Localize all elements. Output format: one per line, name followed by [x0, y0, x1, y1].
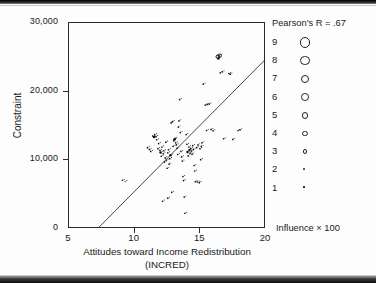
legend-item-label: 3: [272, 145, 277, 156]
data-point: [155, 136, 157, 138]
data-point: [188, 149, 191, 152]
data-point-speckle: [149, 146, 150, 147]
data-point-speckle: [204, 83, 205, 84]
data-point: [198, 182, 200, 184]
data-point: [199, 148, 201, 150]
legend-bubble-icon: [300, 37, 311, 48]
data-point: [168, 163, 170, 165]
data-point-speckle: [126, 180, 127, 181]
data-point: [172, 121, 174, 123]
legend-item-label: 1: [272, 182, 277, 193]
data-point-speckle: [182, 150, 183, 151]
data-point-speckle: [214, 129, 215, 130]
data-point-speckle: [168, 158, 169, 159]
data-point-speckle: [174, 120, 175, 121]
legend-item: 8: [272, 54, 332, 68]
data-point: [166, 167, 168, 169]
data-point-speckle: [159, 147, 160, 148]
data-point-speckle: [199, 180, 200, 181]
data-point: [179, 99, 181, 101]
data-point-speckle: [184, 175, 185, 176]
data-point-speckle: [210, 102, 211, 103]
data-point: [165, 141, 167, 143]
data-point: [183, 180, 185, 182]
data-point: [188, 146, 190, 148]
legend-item-label: 9: [272, 36, 277, 47]
data-point-speckle: [192, 147, 193, 148]
data-point-speckle: [199, 143, 200, 144]
data-point: [163, 150, 165, 152]
data-point: [237, 130, 239, 132]
data-point-speckle: [185, 196, 186, 197]
legend-item-label: 2: [272, 163, 277, 174]
data-point: [172, 145, 174, 147]
data-point-speckle: [203, 141, 204, 142]
data-point-speckle: [241, 128, 242, 129]
data-point: [162, 153, 164, 155]
data-point-speckle: [181, 131, 182, 132]
regression-line: [98, 60, 265, 228]
data-point-speckle: [170, 163, 171, 164]
data-point: [156, 139, 158, 141]
data-point: [193, 165, 195, 167]
data-point-speckle: [194, 144, 195, 145]
data-point-speckle: [151, 148, 152, 149]
data-point: [189, 152, 191, 154]
legend-item: 7: [272, 72, 332, 86]
data-point: [194, 170, 196, 172]
data-point: [164, 157, 166, 159]
legend-bubble-icon: [302, 131, 308, 137]
data-point-speckle: [197, 180, 198, 181]
data-point-speckle: [186, 212, 187, 213]
data-point: [169, 158, 171, 160]
legend-item-label: 8: [272, 54, 277, 65]
data-point: [176, 148, 178, 150]
data-point-speckle: [221, 54, 222, 55]
data-point-speckle: [185, 179, 186, 180]
data-point: [177, 154, 179, 156]
data-point: [160, 155, 162, 157]
data-point: [122, 179, 124, 181]
data-point: [187, 155, 189, 157]
data-point: [174, 138, 176, 140]
data-point: [186, 143, 188, 145]
data-point: [164, 161, 166, 163]
legend-item: 9: [272, 36, 332, 50]
data-point-speckle: [196, 169, 197, 170]
data-point: [223, 138, 225, 140]
data-point: [182, 176, 184, 178]
data-point: [204, 104, 206, 106]
data-point-speckle: [178, 143, 179, 144]
data-point: [220, 72, 222, 74]
data-point: [181, 156, 183, 158]
data-point-speckle: [183, 159, 184, 160]
legend: Pearson's R = .67 987654321 Influence × …: [272, 18, 374, 28]
data-point: [147, 147, 149, 149]
figure-page: 010,00020,00030,0005101520 Constraint At…: [0, 0, 376, 283]
data-point: [159, 151, 162, 154]
data-point-speckle: [224, 70, 225, 71]
data-point: [195, 181, 197, 183]
data-point: [178, 120, 180, 122]
data-point-speckle: [179, 153, 180, 154]
data-point: [202, 83, 204, 85]
data-point-speckle: [183, 155, 184, 156]
data-point: [170, 122, 172, 124]
data-point-speckle: [152, 150, 153, 151]
legend-item-label: 6: [272, 91, 277, 102]
data-point-speckle: [164, 200, 165, 201]
data-point-speckle: [170, 148, 171, 149]
data-point-speckle: [162, 151, 163, 152]
data-point: [167, 197, 169, 199]
data-point: [190, 148, 192, 150]
data-point-speckle: [195, 164, 196, 165]
legend-item-label: 5: [272, 109, 277, 120]
data-point-speckle: [167, 141, 168, 142]
data-point-speckle: [181, 98, 182, 99]
data-point: [175, 142, 177, 144]
data-point-speckle: [230, 72, 231, 73]
data-point: [154, 134, 156, 136]
data-point-speckle: [165, 149, 166, 150]
legend-item: 4: [272, 127, 332, 141]
data-point-speckle: [161, 149, 162, 150]
